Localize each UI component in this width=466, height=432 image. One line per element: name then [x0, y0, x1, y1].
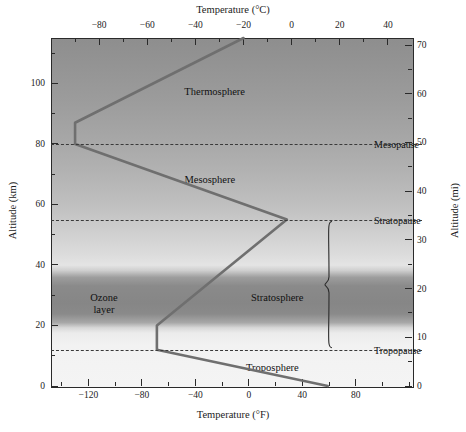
layer-label-troposphere: Troposphere [246, 362, 299, 374]
left-tick-major-5 [51, 83, 58, 84]
right-tick-minor-25 [408, 264, 412, 265]
left-tick-label-1: 20 [19, 320, 45, 330]
left-tick-label-0: 0 [19, 381, 45, 391]
left-tick-label-2: 40 [19, 260, 45, 270]
layer-label-thermosphere: Thermosphere [184, 87, 245, 99]
top-axis-title: Temperature (°C) [0, 4, 466, 15]
bottom-tick-minor-60 [329, 382, 330, 386]
top-tick-label-4: 0 [289, 20, 294, 30]
top-tick-label-5: 20 [335, 20, 345, 30]
top-tick-minor-10 [315, 38, 316, 42]
right-axis-title: Altitude (mi) [449, 171, 460, 251]
bottom-tick-minor-100 [382, 382, 383, 386]
left-tick-minor-10 [51, 355, 55, 356]
pause-line-stratopause [51, 220, 412, 221]
right-tick-major-1 [405, 337, 412, 338]
right-tick-label-0: 0 [417, 381, 443, 391]
top-tick-label-0: −80 [92, 20, 107, 30]
layer-label-stratosphere: Stratosphere [251, 292, 304, 304]
layer-label-mesosphere: Mesosphere [184, 174, 235, 186]
right-tick-major-7 [405, 45, 412, 46]
left-tick-major-1 [51, 325, 58, 326]
bottom-tick-minor--120 [88, 382, 89, 386]
right-tick-minor-55 [408, 118, 412, 119]
left-tick-major-2 [51, 264, 58, 265]
bottom-tick-minor--80 [141, 382, 142, 386]
top-tick-minor--10 [267, 38, 268, 42]
left-tick-minor-90 [51, 113, 55, 114]
bottom-tick-minor--20 [222, 382, 223, 386]
right-tick-major-4 [405, 191, 412, 192]
bottom-tick-label-3: 0 [247, 390, 252, 400]
top-tick-minor--30 [219, 38, 220, 42]
right-tick-label-2: 20 [417, 284, 443, 294]
left-tick-minor-110 [51, 53, 55, 54]
top-tick-major-0 [99, 38, 100, 45]
pause-line-tropopause [51, 350, 412, 351]
left-tick-major-3 [51, 204, 58, 205]
bottom-tick-label-2: −40 [188, 390, 203, 400]
bottom-tick-label-0: −120 [79, 390, 99, 400]
left-tick-minor-70 [51, 174, 55, 175]
right-tick-major-3 [405, 239, 412, 240]
right-tick-label-7: 70 [417, 40, 443, 50]
top-tick-major-5 [339, 38, 340, 45]
top-tick-label-6: 40 [383, 20, 393, 30]
bottom-tick-minor-0 [248, 382, 249, 386]
right-tick-minor-45 [408, 166, 412, 167]
right-tick-label-6: 60 [417, 89, 443, 99]
bottom-tick-minor--140 [61, 382, 62, 386]
top-tick-major-3 [243, 38, 244, 45]
left-tick-label-3: 60 [19, 199, 45, 209]
bottom-tick-minor-20 [275, 382, 276, 386]
bottom-tick-minor--100 [115, 382, 116, 386]
right-tick-label-1: 10 [417, 332, 443, 342]
left-tick-label-5: 100 [19, 78, 45, 88]
left-tick-minor-30 [51, 295, 55, 296]
right-tick-major-0 [405, 386, 412, 387]
ozone-label-line1: Ozone [90, 293, 117, 304]
atmosphere-temperature-chart: Temperature (°C) Temperature (°F) Altitu… [0, 0, 466, 432]
pause-line-tail-tropopause [414, 350, 422, 351]
right-tick-major-2 [405, 288, 412, 289]
right-tick-label-3: 30 [417, 235, 443, 245]
bottom-tick-label-5: 80 [351, 390, 361, 400]
left-tick-label-4: 80 [19, 139, 45, 149]
bottom-tick-minor-80 [355, 382, 356, 386]
layer-label-ozone-layer: Ozonelayer [90, 293, 117, 317]
bottom-tick-minor--60 [168, 382, 169, 386]
right-tick-label-4: 40 [417, 186, 443, 196]
left-tick-major-0 [51, 386, 58, 387]
right-tick-minor-65 [408, 69, 412, 70]
bottom-tick-label-4: 40 [298, 390, 308, 400]
top-tick-minor--70 [123, 38, 124, 42]
ozone-label-line2: layer [93, 304, 114, 315]
pause-line-tail-mesopause [414, 144, 422, 145]
left-axis-title: Altitude (km) [7, 171, 18, 251]
top-tick-major-2 [195, 38, 196, 45]
bottom-tick-minor--40 [195, 382, 196, 386]
top-tick-major-1 [147, 38, 148, 45]
top-tick-major-4 [291, 38, 292, 45]
left-tick-minor-50 [51, 234, 55, 235]
bottom-tick-label-1: −80 [134, 390, 149, 400]
bottom-tick-minor-40 [302, 382, 303, 386]
right-tick-minor-15 [408, 312, 412, 313]
pause-line-mesopause [51, 144, 412, 145]
pause-line-tail-stratopause [414, 220, 422, 221]
top-tick-minor--90 [75, 38, 76, 42]
bottom-axis-title: Temperature (°F) [0, 409, 466, 420]
top-tick-minor-30 [363, 38, 364, 42]
top-tick-minor--50 [171, 38, 172, 42]
right-tick-minor-5 [408, 361, 412, 362]
top-tick-label-2: −40 [188, 20, 203, 30]
top-tick-label-3: −20 [236, 20, 251, 30]
top-tick-major-6 [387, 38, 388, 45]
top-tick-label-1: −60 [140, 20, 155, 30]
right-tick-major-6 [405, 93, 412, 94]
